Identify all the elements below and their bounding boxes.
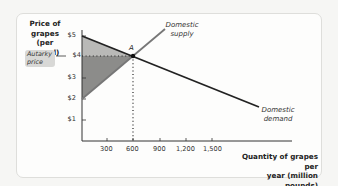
autarky-price-label: Autarky price — [25, 50, 55, 67]
y-tick-1: $1 — [58, 115, 76, 123]
equilibrium-label: A — [129, 44, 134, 52]
x-tick-300: 300 — [100, 145, 113, 153]
domestic-supply-label: Domestic supply — [162, 21, 202, 38]
y-tick-4: $4 — [63, 51, 81, 59]
x-axis-label: Quantity of grapes per year (million pou… — [232, 152, 318, 186]
y-tick-2: $2 — [58, 94, 76, 102]
domestic-demand-label: Domestic demand — [258, 106, 298, 123]
y-tick-5: $5 — [58, 31, 76, 39]
x-tick-1500: 1,500 — [203, 145, 222, 153]
x-tick-900: 900 — [153, 145, 166, 153]
y-tick-3: $3 — [58, 73, 76, 81]
x-tick-600: 600 — [126, 145, 139, 153]
equilibrium-point — [131, 54, 135, 58]
x-tick-1200: 1,200 — [176, 145, 195, 153]
